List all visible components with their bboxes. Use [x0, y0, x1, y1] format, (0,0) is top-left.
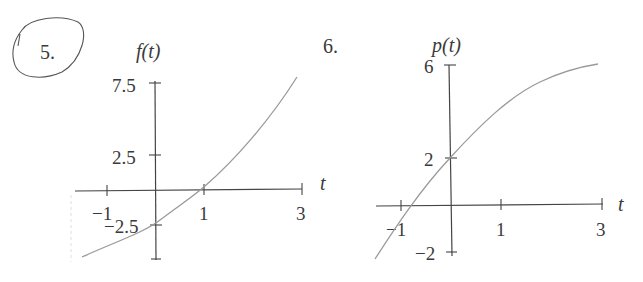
p-ytick-6: 6 — [424, 56, 434, 77]
p-xtick-1: 1 — [496, 219, 506, 240]
f-ytick-2.5: 2.5 — [112, 147, 136, 168]
problem-number-6: 6. — [323, 35, 338, 57]
f-ytick-7.5: 7.5 — [112, 75, 136, 96]
y-axis-f — [155, 81, 156, 260]
x-axis-f — [75, 189, 302, 191]
p-xtick-3: 3 — [596, 219, 606, 240]
y-axis-label-f: f(t) — [136, 40, 161, 63]
p-ytick-neg2: −2 — [415, 243, 435, 264]
problem-5: 5. f(t) 7.5 2.5 −2.5 −1 1 3 t — [13, 18, 326, 262]
f-xtick-3: 3 — [296, 203, 306, 224]
f-xtick-neg1: −1 — [92, 203, 112, 224]
x-axis-label-p: t — [618, 193, 624, 215]
y-axis-label-p: p(t) — [430, 34, 461, 57]
x-axis-p — [376, 204, 603, 206]
x-axis-label-f: t — [320, 172, 326, 194]
p-ytick-2: 2 — [424, 149, 434, 170]
curve-p — [375, 64, 598, 259]
f-xtick-1: 1 — [199, 203, 209, 224]
figure-canvas: 5. f(t) 7.5 2.5 −2.5 −1 1 3 t 6. p(t) — [0, 0, 643, 282]
y-axis-p — [449, 65, 452, 256]
problem-6: 6. p(t) 6 2 −2 −1 1 3 t — [323, 34, 624, 264]
problem-number-5: 5. — [40, 41, 55, 63]
